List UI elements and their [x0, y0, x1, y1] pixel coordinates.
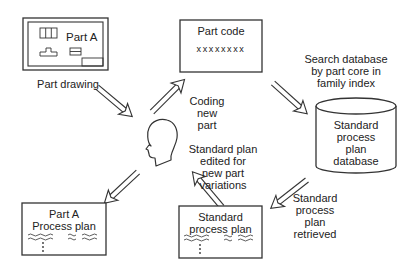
part-a-plan-title: Part A Process plan [22, 208, 106, 232]
label-retrieved-line: process [284, 204, 346, 216]
database-label-line: database [316, 155, 396, 167]
label-edited: Standard plan edited for new part variat… [178, 143, 268, 191]
label-coding: Coding new part [184, 95, 230, 131]
label-search: Search database by part core in family i… [286, 53, 406, 89]
label-retrieved-line: retrieved [284, 228, 346, 240]
label-search-line: Search database [286, 53, 406, 65]
label-coding-line: part [184, 119, 230, 131]
label-retrieved-line: plan [284, 216, 346, 228]
part-drawing-caption: Part drawing [30, 78, 106, 90]
standard-plan-title: Standard process plan [179, 211, 262, 235]
label-retrieved-line: Standard [284, 192, 346, 204]
part-drawing-frame [23, 18, 108, 70]
part-code-title: Part code [180, 25, 262, 37]
label-retrieved: Standard process plan retrieved [284, 192, 346, 240]
database-label: Standard process plan database [316, 119, 396, 167]
part-a-plan-title-line: Process plan [22, 220, 106, 232]
label-coding-line: Coding [184, 95, 230, 107]
arrow-planner-to-part-plan [100, 167, 143, 209]
part-code-value: xxxxxxxx [180, 43, 262, 55]
database-label-line: Standard [316, 119, 396, 131]
label-edited-line: Standard plan [178, 143, 268, 155]
standard-plan-title-line: Standard [179, 211, 262, 223]
label-edited-line: new part [178, 167, 268, 179]
human-head-icon [146, 119, 177, 166]
label-search-line: by part core in [286, 65, 406, 77]
label-coding-line: new [184, 107, 230, 119]
part-drawing-title: Part A [66, 31, 97, 43]
label-edited-line: variations [178, 179, 268, 191]
database-label-line: plan [316, 143, 396, 155]
label-edited-line: edited for [178, 155, 268, 167]
standard-plan-title-line: process plan [179, 223, 262, 235]
label-search-line: family index [286, 77, 406, 89]
database-label-line: process [316, 131, 396, 143]
part-a-plan-title-line: Part A [22, 208, 106, 220]
